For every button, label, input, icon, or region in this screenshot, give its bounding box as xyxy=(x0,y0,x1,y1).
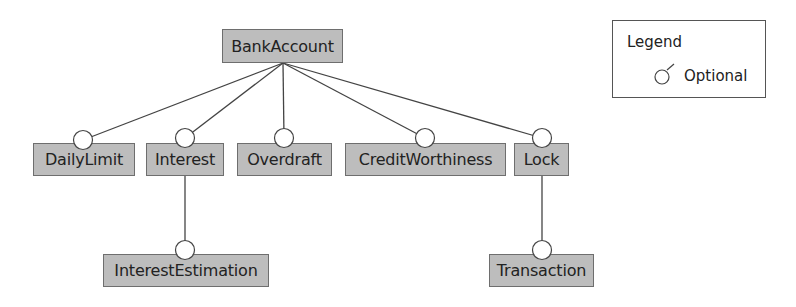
optional-circle-icon xyxy=(176,241,195,260)
feature-diagram: BankAccount DailyLimit Interest Overdraf… xyxy=(0,0,796,307)
optional-circle-icon xyxy=(416,129,435,148)
legend-title: Legend xyxy=(627,33,682,51)
legend: Legend Optional xyxy=(612,20,766,98)
optional-circle-icon xyxy=(653,63,677,87)
optional-circle-icon xyxy=(275,129,294,148)
optional-circle-icon xyxy=(74,131,93,150)
optional-circle-icon xyxy=(533,241,552,260)
legend-item-optional: Optional xyxy=(684,67,747,85)
optional-circle-icon xyxy=(533,129,552,148)
optional-circle-icon xyxy=(176,129,195,148)
